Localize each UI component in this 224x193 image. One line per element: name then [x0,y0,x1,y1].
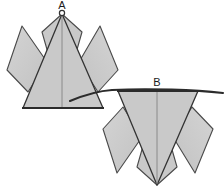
step-label-b: B [153,76,160,88]
origami-diagram-page: A B [0,0,224,193]
step-label-a: A [58,0,66,11]
figure-step-b: B [103,76,213,185]
vertex-marker-icon [59,10,64,15]
origami-diagram-canvas: A B [0,0,224,193]
